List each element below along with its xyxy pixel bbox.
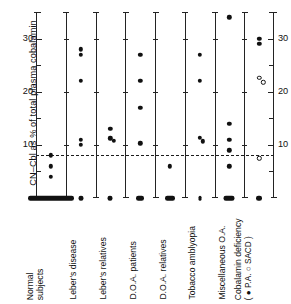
group-separator-spine xyxy=(155,12,156,198)
y-axis-tick xyxy=(94,145,99,146)
y-axis-tick xyxy=(153,39,158,40)
data-point-open xyxy=(261,80,265,84)
axis-cap-top xyxy=(242,12,248,13)
axis-cap-top xyxy=(63,12,69,13)
category-label-line: D.O.A. patients xyxy=(129,242,139,300)
data-point-filled xyxy=(49,164,53,168)
axis-cap-bottom xyxy=(123,197,129,198)
x-axis-category-label: D.O.A. relatives xyxy=(159,240,169,300)
group-separator-spine xyxy=(185,12,186,198)
axis-cap-bottom xyxy=(153,197,159,198)
axis-cap-bottom xyxy=(242,197,248,198)
data-point-filled xyxy=(257,42,261,46)
category-label-line: Miscellaneous O.A. xyxy=(218,226,228,300)
data-point-filled xyxy=(138,141,142,145)
y-axis-tick xyxy=(153,92,158,93)
plot-area: 102030102030 xyxy=(36,12,274,198)
y-axis-tick xyxy=(242,39,247,40)
data-point-cluster xyxy=(28,196,74,201)
y-axis-tick xyxy=(37,65,41,66)
data-point-cluster xyxy=(256,196,262,201)
data-point-filled xyxy=(138,79,142,83)
y-axis-tick xyxy=(37,39,42,40)
data-point-filled xyxy=(168,164,172,168)
axis-cap-top xyxy=(123,12,129,13)
y-axis-tick-label: 30 xyxy=(278,33,288,43)
data-point-filled xyxy=(227,15,231,19)
y-axis-tick xyxy=(37,118,41,119)
y-axis-tick xyxy=(64,145,69,146)
data-point-filled xyxy=(78,137,82,141)
group-separator-spine xyxy=(244,12,245,198)
axis-cap-bottom xyxy=(182,197,188,198)
data-point-filled xyxy=(227,164,231,168)
data-point-filled xyxy=(78,47,82,51)
category-label-line: D.O.A. relatives xyxy=(159,240,169,300)
axis-cap-top xyxy=(182,12,188,13)
y-axis-tick xyxy=(183,145,188,146)
data-point-filled xyxy=(227,148,231,152)
x-axis-category-label: Leber's relatives xyxy=(99,238,109,300)
y-axis-tick-label: 10 xyxy=(23,139,33,149)
data-point-filled xyxy=(138,52,142,56)
y-axis-tick-label: 20 xyxy=(23,86,33,96)
data-point-open xyxy=(257,76,261,80)
figure-scatter-plot: CN–Cbl as % of total plasma cobalamin 10… xyxy=(0,0,291,304)
y-axis-tick xyxy=(37,145,42,146)
y-axis-tick xyxy=(213,145,218,146)
y-axis-tick xyxy=(213,39,218,40)
data-point-cluster xyxy=(136,196,144,201)
data-point-cluster xyxy=(108,196,113,201)
y-axis-tick-label: 20 xyxy=(278,86,288,96)
category-label-line: Leber's disease xyxy=(70,240,80,300)
y-axis-tick xyxy=(268,39,273,40)
data-point-cluster xyxy=(198,196,201,201)
y-axis-tick xyxy=(213,92,218,93)
category-label-line: Cobalamin deficiency xyxy=(234,218,244,300)
y-axis-tick-label: 10 xyxy=(278,139,288,149)
axis-cap-bottom xyxy=(212,197,218,198)
data-point-filled xyxy=(197,52,201,56)
axis-cap-top xyxy=(93,12,99,13)
y-axis-tick xyxy=(269,65,273,66)
group-separator-spine xyxy=(215,12,216,198)
y-axis-tick xyxy=(153,145,158,146)
group-separator-spine xyxy=(66,12,67,198)
data-point-filled xyxy=(49,153,53,157)
x-axis-category-label: Tobacco amblyopia xyxy=(189,226,199,300)
group-separator-spine xyxy=(96,12,97,198)
data-point-cluster xyxy=(165,196,175,201)
data-point-filled xyxy=(257,36,261,40)
x-axis-category-label: Miscellaneous O.A. xyxy=(218,226,228,300)
y-axis-tick xyxy=(37,92,42,93)
category-label-line: subjects xyxy=(35,268,45,300)
data-point-open xyxy=(257,156,261,160)
y-axis-tick xyxy=(123,145,128,146)
y-axis-tick xyxy=(64,39,69,40)
group-separator-spine xyxy=(125,12,126,198)
data-point-filled xyxy=(227,121,231,125)
data-point-cluster xyxy=(224,196,235,201)
data-point-filled xyxy=(197,79,201,83)
y-axis-tick xyxy=(37,12,41,13)
y-axis-tick xyxy=(37,171,41,172)
axis-cap-bottom xyxy=(93,197,99,198)
data-point-filled xyxy=(78,143,82,147)
data-point-filled xyxy=(111,138,115,142)
y-axis-right-spine: 102030 xyxy=(273,12,274,198)
y-axis-tick xyxy=(269,12,273,13)
y-axis-tick xyxy=(94,92,99,93)
y-axis-tick xyxy=(183,92,188,93)
data-point-filled xyxy=(49,175,53,179)
category-label-line: Normal xyxy=(26,268,36,300)
data-point-filled xyxy=(78,79,82,83)
y-axis-tick xyxy=(183,39,188,40)
data-point-filled xyxy=(108,127,112,131)
y-axis-tick xyxy=(268,92,273,93)
category-label-line: Tobacco amblyopia xyxy=(189,226,199,300)
data-point-filled xyxy=(138,105,142,109)
y-axis-tick xyxy=(123,39,128,40)
x-axis-category-label: D.O.A. patients xyxy=(129,242,139,300)
y-axis-tick xyxy=(242,145,247,146)
x-axis-category-label: Leber's disease xyxy=(70,240,80,300)
